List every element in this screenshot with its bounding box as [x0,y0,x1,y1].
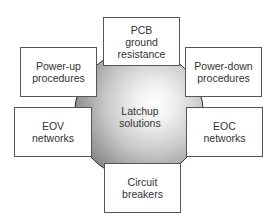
center-label-text: Latchup solutions [112,105,168,129]
node-power-down-procedures: Power-down procedures [185,47,262,97]
center-label: Latchup solutions [112,105,168,129]
node-power-up-procedures: Power-up procedures [20,47,97,97]
node-pcb-ground-resistance: PCB ground resistance [103,17,180,66]
node-eov-networks: EOV networks [14,107,92,157]
node-label: EOV networks [32,120,74,144]
node-eoc-networks: EOC networks [186,107,263,157]
node-label: Power-up procedures [32,60,85,84]
node-label: PCB ground resistance [118,24,166,60]
node-label: Power-down procedures [194,60,252,84]
node-label: Circuit breakers [122,176,163,200]
node-circuit-breakers: Circuit breakers [104,163,181,213]
node-label: EOC networks [203,120,245,144]
